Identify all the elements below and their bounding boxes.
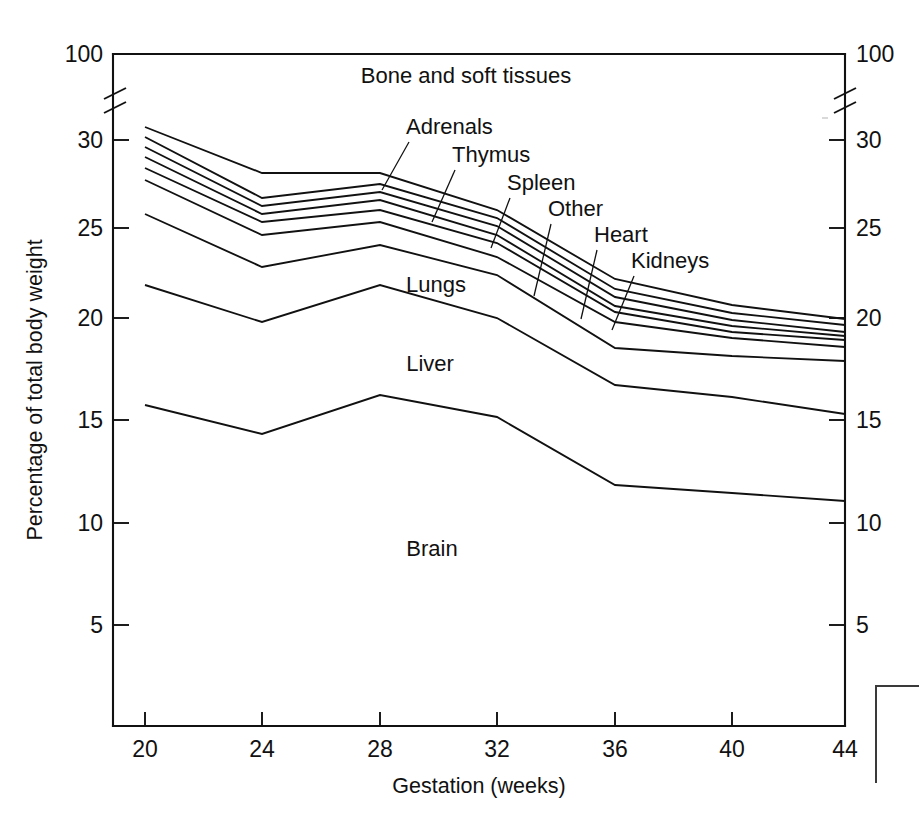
- x-tick-label-44: 44: [832, 736, 858, 762]
- y-tick-label-right-100: 100: [856, 41, 894, 67]
- leader-line-adrenals: [382, 142, 409, 190]
- series-line-brain: [145, 395, 845, 501]
- band-label-brain: Brain: [406, 536, 457, 561]
- x-axis-title: Gestation (weeks): [392, 774, 565, 798]
- y-tick-label-left-10: 10: [77, 510, 103, 536]
- leader-line-kidneys: [612, 276, 634, 330]
- series-line-spleen: [145, 147, 845, 332]
- y-tick-label-right-25: 25: [856, 215, 882, 241]
- series-label-thymus: Thymus: [452, 142, 530, 167]
- y-tick-label-left-30: 30: [77, 127, 103, 153]
- x-tick-label-28: 28: [367, 736, 393, 762]
- y-tick-label-right-30: 30: [856, 127, 882, 153]
- y-tick-label-left-5: 5: [90, 612, 103, 638]
- axis-break-left: [104, 88, 126, 113]
- y-tick-label-right-15: 15: [856, 407, 882, 433]
- x-tick-label-20: 20: [132, 736, 158, 762]
- x-tick-label-36: 36: [602, 736, 628, 762]
- adjacent-figure-corner-artifact: [876, 686, 919, 783]
- y-tick-label-left-100: 100: [65, 41, 103, 67]
- figure-root: 100 30 25 20 15 10 5 100 30 25 20 15 10 …: [0, 0, 919, 818]
- y-tick-label-left-20: 20: [77, 305, 103, 331]
- y-tick-label-left-25: 25: [77, 215, 103, 241]
- x-tick-label-32: 32: [484, 736, 510, 762]
- y-tick-label-left-15: 15: [77, 407, 103, 433]
- band-label-lungs: Lungs: [406, 272, 466, 297]
- series-line-other: [145, 157, 845, 336]
- y-tick-label-right-5: 5: [856, 612, 869, 638]
- band-label-liver: Liver: [406, 351, 454, 376]
- chart-svg: 100 30 25 20 15 10 5 100 30 25 20 15 10 …: [0, 0, 919, 818]
- y-axis-title: Percentage of total body weight: [23, 239, 47, 540]
- y-tick-label-right-10: 10: [856, 510, 882, 536]
- series-label-spleen: Spleen: [507, 170, 576, 195]
- series-line-liver: [145, 285, 845, 414]
- y-ticks-left: [113, 140, 129, 625]
- series-label-other: Other: [548, 196, 603, 221]
- x-ticks: [145, 712, 732, 726]
- x-tick-label-24: 24: [249, 736, 275, 762]
- y-tick-label-right-20: 20: [856, 305, 882, 331]
- band-label-bone-and-soft-tissues: Bone and soft tissues: [361, 63, 571, 88]
- y-ticks-right: [829, 140, 845, 625]
- series-label-heart: Heart: [594, 222, 648, 247]
- series-line-kidneys: [145, 180, 845, 347]
- series-label-kidneys: Kidneys: [631, 248, 709, 273]
- x-tick-label-40: 40: [719, 736, 745, 762]
- series-label-adrenals: Adrenals: [406, 114, 493, 139]
